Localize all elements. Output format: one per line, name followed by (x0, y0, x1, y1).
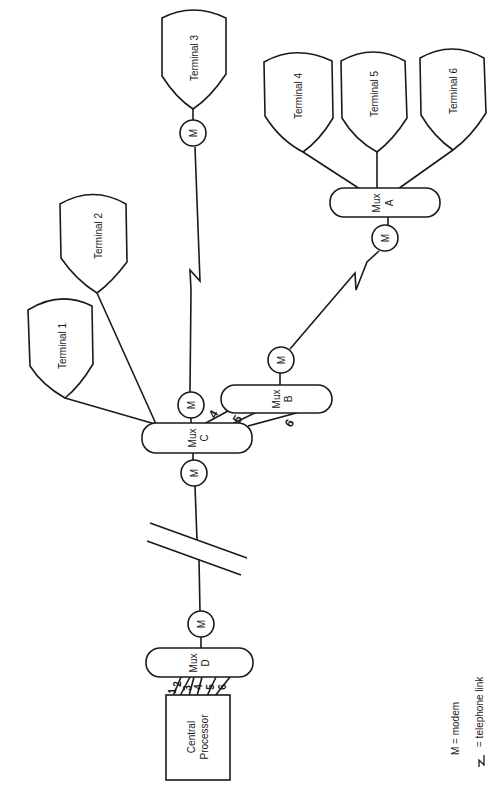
processor-label-line2: Processor (199, 714, 210, 760)
terminal-1-label: Terminal 1 (57, 323, 68, 370)
network-diagram: Terminal 3 Terminal 2 Terminal 1 Termina… (0, 0, 501, 786)
telephone-link-muxb-muxa (290, 251, 379, 349)
processor-label-line1: Central (186, 721, 197, 753)
terminal-3-label: Terminal 3 (189, 35, 200, 82)
telephone-link-icon (479, 755, 484, 767)
mux-b-label-line2: B (283, 395, 294, 402)
terminal-1: Terminal 1 (28, 299, 93, 398)
terminal-4: Terminal 4 (264, 53, 333, 152)
modem-muxd: M (188, 611, 214, 637)
modem-label: M (189, 469, 200, 477)
terminal-6-label: Terminal 6 (448, 68, 459, 115)
link-t4-muxa (303, 152, 360, 189)
modem-label: M (276, 356, 287, 364)
channel-d-5: 5 (205, 684, 216, 690)
mux-b-label-line1: Mux (271, 390, 282, 409)
modem-label: M (188, 129, 199, 137)
channel-d-6: 6 (217, 684, 228, 690)
mux-a-label-line1: Mux (371, 194, 382, 213)
break-slash-1 (150, 523, 247, 558)
terminal-4-label: Terminal 4 (293, 73, 304, 120)
legend: M = modem = telephone link (450, 676, 485, 767)
terminal-5: Terminal 5 (341, 52, 407, 152)
terminal-2-label: Terminal 2 (93, 213, 104, 260)
mux-a: Mux A (330, 188, 440, 217)
channel-d-1: 1 (167, 688, 178, 694)
mux-c: Mux C (142, 423, 252, 453)
modem-terminal-3: M (180, 120, 206, 146)
trunk-line-upper (195, 486, 197, 540)
legend-telephone-link: = telephone link (474, 676, 485, 747)
modem-label: M (380, 234, 391, 242)
mux-c-label-line1: Mux (187, 429, 198, 448)
terminal-5-label: Terminal 5 (369, 71, 380, 118)
mux-d-label-line2: D (200, 659, 211, 666)
channel-number-6: 6 (282, 416, 298, 429)
mux-b: Mux B (221, 385, 332, 413)
link-t1-muxc (65, 398, 155, 424)
channel-d-3: 3 (182, 685, 193, 691)
legend-modem: M = modem (450, 702, 461, 755)
trunk-line-lower (199, 559, 200, 612)
central-processor: Central Processor (166, 695, 230, 780)
modem-muxb: M (268, 347, 294, 373)
break-slash-2 (147, 541, 241, 575)
mux-d: Mux D (146, 648, 253, 677)
telephone-link-t3 (190, 147, 200, 392)
channel-number-4: 4 (206, 407, 222, 420)
modem-muxc-top: M (178, 392, 204, 418)
modem-muxc-bottom: M (181, 460, 207, 486)
terminal-6: Terminal 6 (420, 49, 486, 150)
terminal-3: Terminal 3 (162, 10, 226, 109)
mux-a-label-line2: A (384, 199, 395, 206)
terminal-2: Terminal 2 (60, 195, 127, 294)
link-t2-muxc (97, 293, 156, 424)
mux-d-label-line1: Mux (188, 654, 199, 673)
mux-c-label-line2: C (199, 434, 210, 441)
channel-d-4: 4 (193, 684, 204, 690)
modem-label: M (186, 401, 197, 409)
modem-muxa: M (372, 225, 398, 251)
modem-label: M (196, 620, 207, 628)
link-t6-muxa (398, 150, 453, 189)
